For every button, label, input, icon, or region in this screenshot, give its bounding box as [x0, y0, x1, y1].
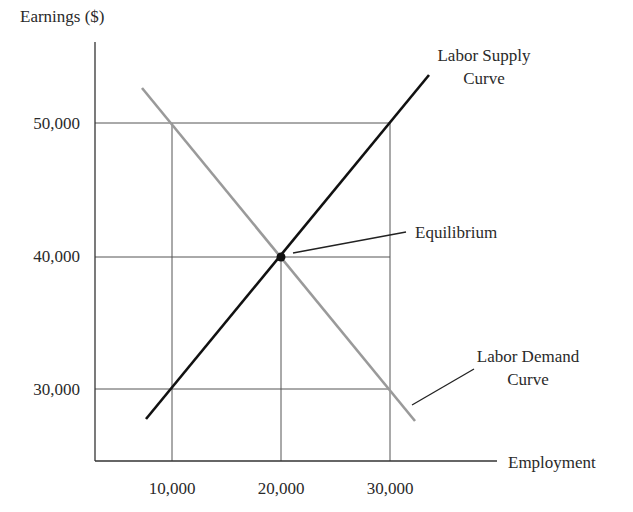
equilibrium-label: Equilibrium: [415, 223, 497, 242]
demand-label-line1: Labor Demand: [477, 347, 580, 366]
equilibrium-point: [277, 253, 286, 262]
y-tick-30000: 30,000: [33, 380, 80, 399]
supply-label-line2: Curve: [463, 69, 505, 88]
y-axis-label: Earnings ($): [20, 7, 105, 26]
demand-label-line2: Curve: [507, 370, 549, 389]
x-axis-label: Employment: [508, 453, 596, 472]
x-tick-20000: 20,000: [258, 479, 305, 498]
demand-leader-line: [412, 369, 474, 405]
supply-demand-chart: Earnings ($) Employment 50,000 40,000 30…: [0, 0, 633, 512]
y-tick-50000: 50,000: [33, 114, 80, 133]
x-tick-30000: 30,000: [367, 479, 414, 498]
grid: [95, 123, 390, 461]
x-tick-10000: 10,000: [149, 479, 196, 498]
equilibrium-leader-line: [293, 232, 406, 253]
supply-label-line1: Labor Supply: [437, 46, 531, 65]
y-tick-40000: 40,000: [33, 247, 80, 266]
labor-supply-curve: [146, 75, 429, 419]
